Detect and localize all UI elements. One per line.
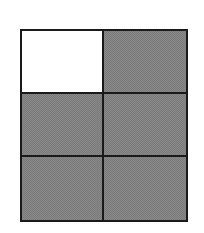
unshaded-cell (22, 31, 104, 94)
shaded-cell (104, 157, 186, 220)
fraction-grid (20, 29, 188, 222)
shaded-cell (22, 94, 104, 157)
shaded-cell (104, 94, 186, 157)
shaded-cell (22, 157, 104, 220)
shaded-cell (104, 31, 186, 94)
